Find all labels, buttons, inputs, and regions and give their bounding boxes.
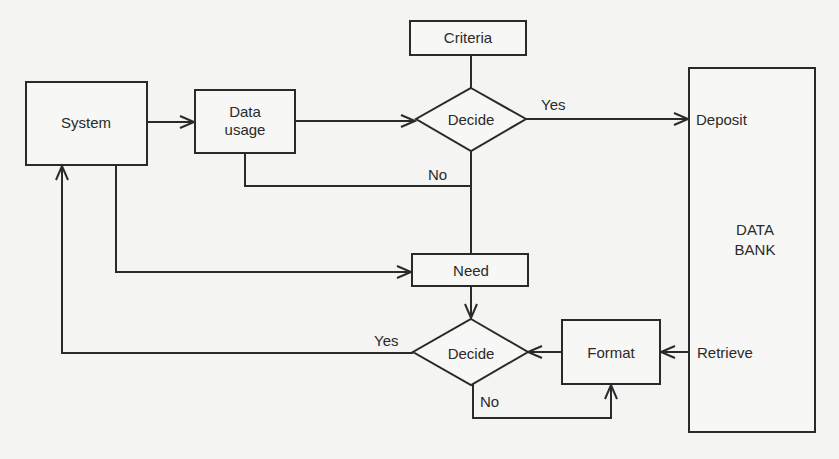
- node-data-usage-label-line2: usage: [225, 121, 266, 138]
- node-need-label: Need: [453, 262, 489, 279]
- node-data-usage: Data usage: [195, 90, 295, 153]
- data-bank-label-line2: BANK: [735, 241, 776, 258]
- node-system-label: System: [61, 114, 111, 131]
- node-system: System: [26, 82, 147, 165]
- node-decide-bottom-label: Decide: [448, 345, 495, 362]
- data-bank-retrieve-label: Retrieve: [697, 344, 753, 361]
- node-need: Need: [412, 254, 528, 286]
- node-criteria: Criteria: [410, 21, 526, 55]
- node-criteria-label: Criteria: [444, 29, 493, 46]
- edge-label-top-no: No: [428, 166, 447, 183]
- node-format: Format: [562, 320, 660, 384]
- node-decide-top: Decide: [416, 88, 526, 151]
- node-decide-bottom: Decide: [413, 319, 528, 385]
- edge-system-to-need: [116, 165, 410, 272]
- edge-label-bottom-no: No: [480, 393, 499, 410]
- edge-label-bottom-yes: Yes: [374, 332, 398, 349]
- node-data-usage-label-line1: Data: [229, 103, 261, 120]
- node-data-bank: Deposit DATA BANK Retrieve: [689, 68, 815, 432]
- data-bank-deposit-label: Deposit: [696, 111, 748, 128]
- node-decide-top-label: Decide: [448, 111, 495, 128]
- data-bank-label-line1: DATA: [736, 221, 774, 238]
- edge-label-top-yes: Yes: [541, 96, 565, 113]
- flowchart-canvas: System Data usage Criteria Decide Need D…: [0, 0, 839, 459]
- edge-decide-yes-to-system: [62, 166, 413, 353]
- node-format-label: Format: [587, 344, 635, 361]
